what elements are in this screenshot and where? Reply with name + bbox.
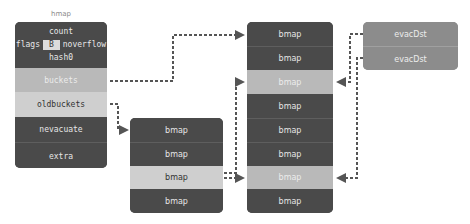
connector-arrows (0, 0, 470, 224)
evacdst-x-arrow (338, 34, 363, 82)
buckets-arrow (110, 35, 243, 81)
oldbuckets-arrow (110, 104, 127, 130)
evac-x-arrow (224, 82, 243, 173)
